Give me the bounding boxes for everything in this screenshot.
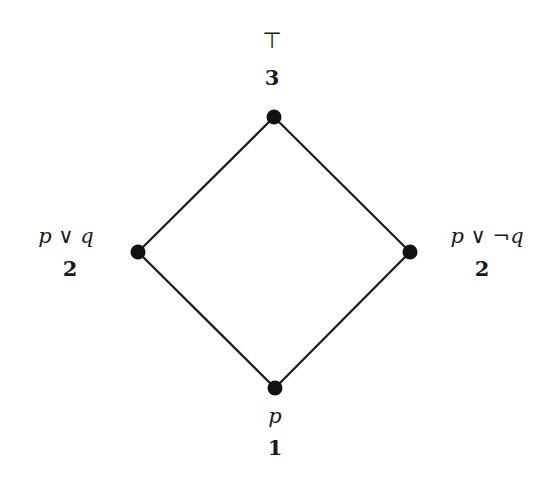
node-left [131,245,146,260]
left-node-formula: p ∨ q [38,226,94,247]
right-node-formula: p ∨ ¬q [450,226,523,247]
nodes [131,110,418,396]
left-node-rank: 2 [63,258,78,279]
edge-left-bottom [138,252,275,388]
edge-top-left [138,117,274,252]
node-top [267,110,282,125]
edge-top-right [274,117,410,252]
edges [138,117,410,388]
top-node-formula: ⊤ [262,30,281,52]
bottom-node-rank: 1 [268,437,283,458]
top-node-rank: 3 [265,67,280,88]
right-node-rank: 2 [475,258,490,279]
node-bottom [268,381,283,396]
edge-right-bottom [275,252,410,388]
bottom-node-formula: p [268,406,281,427]
node-right [403,245,418,260]
